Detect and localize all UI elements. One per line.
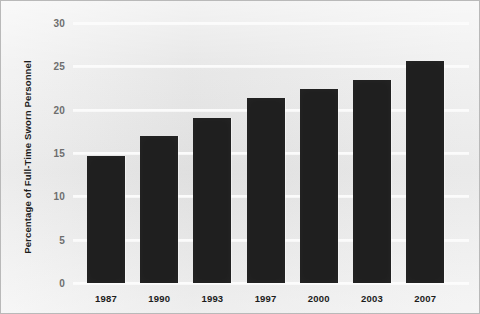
x-tick-label: 2000 (300, 293, 338, 304)
bar (87, 156, 125, 283)
y-tick-label: 10 (53, 191, 65, 202)
y-tick-label: 0 (59, 278, 65, 289)
x-tick-label: 1990 (140, 293, 178, 304)
y-tick-label: 15 (53, 148, 65, 159)
y-tick-label: 25 (53, 61, 65, 72)
bar (300, 89, 338, 283)
y-axis-title: Percentage of Full-Time Sworn Personnel (22, 42, 33, 272)
plot-area: 051015202530 198719901993199720002003200… (73, 23, 469, 283)
bar (247, 98, 285, 283)
y-tick-label: 5 (59, 234, 65, 245)
bars-group: 1987199019931997200020032007 (73, 23, 469, 283)
bar (406, 61, 444, 283)
x-tick-label: 1997 (247, 293, 285, 304)
bar (193, 118, 231, 283)
x-tick-label: 2007 (406, 293, 444, 304)
bar-chart-figure: Percentage of Full-Time Sworn Personnel … (0, 0, 480, 314)
y-tick-label: 20 (53, 104, 65, 115)
x-tick-label: 2003 (353, 293, 391, 304)
x-tick-label: 1993 (193, 293, 231, 304)
bar (353, 80, 391, 283)
bar (140, 136, 178, 283)
x-tick-label: 1987 (87, 293, 125, 304)
y-tick-label: 30 (53, 18, 65, 29)
